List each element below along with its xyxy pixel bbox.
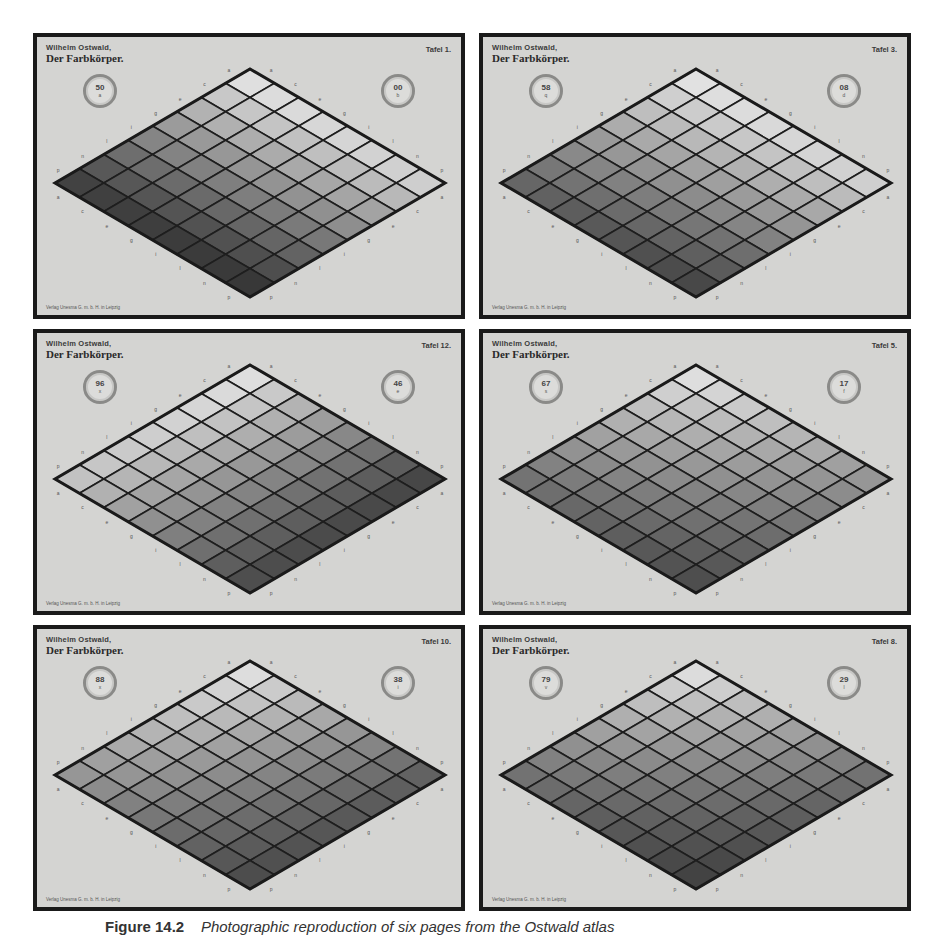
edge-label: i [155, 547, 156, 553]
edge-label: e [106, 519, 109, 525]
edge-label: n [294, 872, 297, 878]
edge-label: a [440, 194, 443, 200]
edge-label: c [416, 208, 419, 214]
edge-label: p [440, 167, 443, 173]
edge-label: i [814, 124, 815, 130]
edge-label: l [839, 730, 840, 736]
edge-label: g [600, 702, 603, 708]
edge-label: n [81, 745, 84, 751]
edge-label: g [343, 406, 346, 412]
plate-title: Der Farbkörper. [492, 644, 570, 656]
edge-label: p [227, 590, 230, 596]
edge-label: i [601, 251, 602, 257]
plate-title: Der Farbkörper. [46, 348, 124, 360]
plate-number: Tafel 3. [872, 45, 897, 54]
edge-label: g [154, 406, 157, 412]
edge-label: g [789, 110, 792, 116]
edge-label: l [319, 561, 320, 567]
edge-label: e [179, 392, 182, 398]
edge-label: l [106, 434, 107, 440]
edge-label: i [131, 124, 132, 130]
edge-label: e [625, 688, 628, 694]
hue-disc-right: 46e [381, 370, 415, 404]
caption-label: Figure 14.2 [105, 918, 184, 935]
edge-label: a [227, 659, 230, 665]
edge-label: p [716, 886, 719, 892]
edge-label: l [319, 857, 320, 863]
plate-number: Tafel 10. [422, 637, 451, 646]
edge-label: e [179, 96, 182, 102]
hue-number: 50 [96, 84, 105, 92]
hue-disc-right: 08d [827, 74, 861, 108]
edge-label: a [886, 490, 889, 496]
edge-label: a [673, 659, 676, 665]
edge-label: a [440, 786, 443, 792]
edge-label: c [649, 377, 652, 383]
edge-label: n [862, 153, 865, 159]
hue-letter: x [99, 684, 102, 690]
edge-label: i [601, 843, 602, 849]
edge-label: a [57, 490, 60, 496]
edge-label: n [416, 449, 419, 455]
plate-number: Tafel 5. [872, 341, 897, 350]
hue-disc-left: 67s [529, 370, 563, 404]
edge-label: n [203, 872, 206, 878]
edge-label: c [527, 800, 530, 806]
edge-label: i [131, 716, 132, 722]
edge-label: g [813, 237, 816, 243]
edge-label: l [839, 138, 840, 144]
edge-label: n [527, 153, 530, 159]
plate-number: Tafel 12. [422, 341, 451, 350]
edge-label: p [503, 167, 506, 173]
edge-label: i [344, 547, 345, 553]
edge-label: p [886, 463, 889, 469]
edge-label: n [527, 449, 530, 455]
plate-author: Wilhelm Ostwald, [492, 339, 557, 348]
edge-label: g [154, 110, 157, 116]
hue-number: 46 [394, 380, 403, 388]
caption-text: Photographic reproduction of six pages f… [201, 918, 615, 935]
hue-disc-right: 00b [381, 74, 415, 108]
hue-letter: f [843, 388, 844, 394]
plate-number: Tafel 8. [872, 637, 897, 646]
edge-label: g [576, 237, 579, 243]
hue-letter: q [545, 92, 548, 98]
edge-label: a [886, 786, 889, 792]
edge-label: i [814, 716, 815, 722]
edge-label: a [227, 67, 230, 73]
edge-label: i [368, 124, 369, 130]
plate-tafel-10: aaaacccceeeeggggiiiillllnnnnppppWilhelm … [33, 625, 465, 911]
edge-label: a [673, 363, 676, 369]
edge-label: g [813, 533, 816, 539]
edge-label: p [270, 886, 273, 892]
plate-tafel-12: aaaacccceeeeggggiiiillllnnnnppppWilhelm … [33, 329, 465, 615]
hue-number: 58 [542, 84, 551, 92]
plate-author: Wilhelm Ostwald, [46, 635, 111, 644]
hue-disc-left: 50a [83, 74, 117, 108]
edge-label: a [270, 67, 273, 73]
plate-author: Wilhelm Ostwald, [492, 635, 557, 644]
edge-label: n [649, 576, 652, 582]
edge-label: n [740, 576, 743, 582]
edge-label: a [270, 659, 273, 665]
ostwald-plates-figure: aaaacccceeeeggggiiiillllnnnnppppWilhelm … [33, 33, 911, 911]
edge-label: p [440, 759, 443, 765]
hue-disc-left: 96x [83, 370, 117, 404]
edge-label: e [625, 96, 628, 102]
plate-title: Der Farbkörper. [492, 348, 570, 360]
plate-number: Tafel 1. [426, 45, 451, 54]
edge-label: i [790, 843, 791, 849]
edge-label: e [392, 815, 395, 821]
edge-label: l [626, 561, 627, 567]
edge-label: p [57, 759, 60, 765]
edge-label: n [862, 745, 865, 751]
edge-label: c [203, 377, 206, 383]
edge-label: e [765, 392, 768, 398]
edge-label: a [716, 659, 719, 665]
edge-label: p [227, 886, 230, 892]
hue-letter: d [843, 92, 846, 98]
edge-label: i [577, 124, 578, 130]
edge-label: p [673, 590, 676, 596]
edge-label: a [503, 786, 506, 792]
edge-label: c [294, 81, 297, 87]
